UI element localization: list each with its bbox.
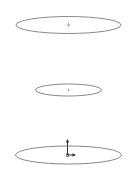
3d-viewport[interactable] (0, 0, 137, 181)
coordinate-triad-icon (66, 139, 76, 157)
sketch-middle-circle[interactable] (36, 84, 102, 96)
viewport-canvas[interactable] (0, 0, 137, 181)
center-marker-plus-icon (67, 23, 71, 28)
center-marker-dot-icon (68, 89, 70, 91)
sketch-top-circle[interactable] (16, 17, 121, 34)
